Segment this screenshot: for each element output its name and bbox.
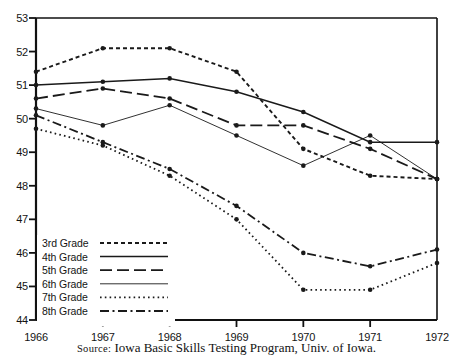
data-point — [167, 103, 172, 108]
y-tick-label: 51 — [6, 79, 28, 91]
y-tick-label: 49 — [6, 146, 28, 158]
data-point — [435, 261, 440, 266]
legend-label-8th-grade: 8th Grade — [42, 305, 88, 317]
data-point — [34, 106, 39, 111]
data-point — [301, 147, 306, 152]
data-point — [34, 126, 39, 131]
y-tick-label: 52 — [6, 46, 28, 58]
data-point — [435, 247, 440, 252]
data-point — [435, 177, 440, 182]
y-tick-label: 46 — [6, 247, 28, 259]
data-point — [301, 110, 306, 115]
legend-label-7th-grade: 7th Grade — [42, 291, 88, 303]
series-line-4th-grade — [36, 78, 437, 142]
figure-container: 53525150494847464544 1966196719681969197… — [0, 0, 453, 360]
data-point — [368, 133, 373, 138]
legend-label-3rd-grade: 3rd Grade — [42, 237, 88, 249]
data-point — [101, 123, 106, 128]
data-point — [368, 264, 373, 269]
data-point — [234, 204, 239, 209]
data-point — [301, 123, 306, 128]
data-point — [167, 167, 172, 172]
data-point — [167, 46, 172, 51]
data-point — [234, 217, 239, 222]
data-point — [167, 76, 172, 81]
source-caption: Source: Iowa Basic Skills Testing Progra… — [0, 340, 453, 356]
data-point — [167, 96, 172, 101]
data-point — [101, 86, 106, 91]
data-point — [368, 140, 373, 145]
data-point — [101, 46, 106, 51]
y-tick-label: 53 — [6, 12, 28, 24]
y-tick-label: 50 — [6, 113, 28, 125]
legend-label-4th-grade: 4th Grade — [42, 251, 88, 263]
data-point — [234, 123, 239, 128]
data-point — [101, 79, 106, 84]
data-point — [101, 140, 106, 145]
data-point — [34, 69, 39, 74]
series-line-3rd-grade — [36, 48, 437, 179]
y-tick-label: 45 — [6, 280, 28, 292]
data-point — [34, 83, 39, 88]
data-point — [234, 69, 239, 74]
data-point — [34, 113, 39, 118]
data-point — [301, 251, 306, 256]
y-tick-label: 48 — [6, 180, 28, 192]
data-point — [34, 96, 39, 101]
legend-label-6th-grade: 6th Grade — [42, 278, 88, 290]
y-tick-label: 44 — [6, 314, 28, 326]
data-point — [435, 140, 440, 145]
data-point — [234, 133, 239, 138]
data-point — [301, 163, 306, 168]
data-point — [301, 288, 306, 293]
data-point — [368, 288, 373, 293]
data-point — [368, 173, 373, 178]
source-text: Iowa Basic Skills Testing Program, Univ.… — [114, 340, 376, 355]
data-point — [234, 90, 239, 95]
legend-label-5th-grade: 5th Grade — [42, 264, 88, 276]
data-point — [167, 173, 172, 178]
source-label: Source: — [77, 343, 111, 354]
data-point — [368, 147, 373, 152]
y-tick-label: 47 — [6, 213, 28, 225]
